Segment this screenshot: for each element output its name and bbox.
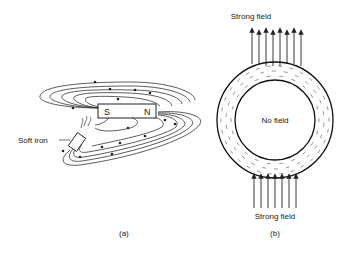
ring-dash (311, 142, 313, 145)
ring-dash (317, 86, 319, 89)
ring-dash (232, 106, 233, 110)
caption-a: (a) (119, 229, 129, 238)
ring-dash (302, 85, 305, 88)
ring-dash (315, 145, 317, 148)
ring-dash (225, 141, 227, 145)
diagram-svg: S N Soft iron (a) Strong field No field (0, 0, 353, 253)
ring-dash (320, 135, 321, 139)
ring-dash (297, 162, 301, 164)
ring-dash (305, 81, 308, 84)
ring-dash (232, 130, 233, 134)
ring-dash (255, 79, 259, 81)
ring-dash (234, 147, 236, 150)
ring-dash (323, 111, 324, 115)
soft-iron-piece (68, 116, 91, 151)
ring-dash (279, 163, 283, 164)
ring-dash (237, 79, 240, 82)
ring-dash (228, 102, 229, 106)
ring-dash (256, 68, 260, 69)
top-field-arrows (252, 30, 301, 66)
ring-dash (284, 72, 288, 73)
ring-dash (300, 72, 303, 74)
ring-dash (310, 158, 313, 161)
ring-dash (314, 90, 316, 93)
ring-dash (291, 159, 295, 161)
ring-dash (246, 72, 249, 74)
ring-dash (290, 171, 294, 172)
diagram: S N Soft iron (a) Strong field No field (0, 0, 353, 253)
ring-dash (302, 152, 305, 155)
ring-dash (324, 140, 326, 144)
ring-dash (257, 171, 261, 172)
ring-dash (225, 97, 227, 101)
ring-dash (222, 130, 223, 134)
top-strong-field-label: Strong field (231, 12, 271, 21)
ring-dash (307, 155, 310, 158)
ring-dash (286, 167, 290, 168)
north-pole-label: N (144, 107, 151, 117)
ring-dash (222, 107, 223, 111)
ring-dash (267, 163, 271, 164)
south-pole-label: S (104, 107, 110, 117)
ring-dash (289, 68, 293, 69)
ring-dash (251, 163, 255, 165)
ring-dash (267, 76, 271, 77)
figure-a: S N Soft iron (a) (18, 81, 201, 238)
ring-dash (242, 156, 245, 159)
ring-dash (230, 87, 232, 90)
ring-dash (317, 130, 318, 134)
ring-dash (320, 100, 321, 104)
ring-dash (323, 96, 325, 100)
ring-dash (311, 95, 313, 98)
ring-dash (226, 125, 227, 129)
bottom-field-arrows (254, 176, 296, 208)
ring-dash (229, 136, 230, 140)
soft-iron-label: Soft iron (18, 136, 48, 145)
ring-dash (233, 91, 235, 94)
ring-dash (317, 106, 318, 110)
figure-b: Strong field No field Strong field (b) (217, 12, 333, 238)
ring-dash (230, 151, 232, 154)
ring-dash (291, 79, 295, 81)
ring-dash (237, 142, 239, 145)
ring-dash (318, 150, 320, 153)
ring-dash (238, 159, 241, 162)
no-field-label: No field (261, 116, 288, 125)
caption-b: (b) (270, 229, 280, 238)
ring-dash (245, 85, 248, 88)
ring-dash (295, 75, 299, 77)
ring-dash (237, 95, 239, 98)
ring-dash (255, 159, 259, 161)
ring-dash (247, 166, 250, 168)
ring-dash (245, 152, 248, 155)
ring-dash (328, 129, 329, 133)
ring-dash (309, 78, 312, 81)
ring-dash (279, 76, 283, 77)
bottom-strong-field-label: Strong field (255, 212, 295, 221)
ring-dash (240, 83, 243, 86)
ring-dash (301, 165, 304, 167)
ring-dash (260, 72, 264, 73)
ring-dash (250, 76, 254, 78)
ring-dash (327, 106, 328, 110)
ring-dash (262, 167, 266, 168)
